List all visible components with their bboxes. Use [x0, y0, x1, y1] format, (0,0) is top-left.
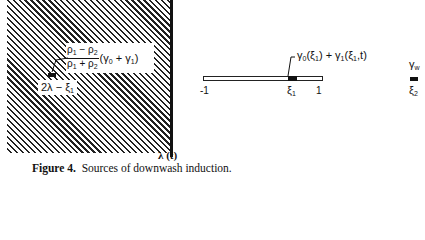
plate-left-end-label: -1 [200, 85, 209, 96]
bound-vortex-position-label: ξ1 [287, 84, 296, 97]
wall-position-label: λ (t) [158, 149, 177, 161]
image-vortex-marker [48, 73, 56, 77]
wake-vortex-position-label: ξ2 [409, 84, 418, 97]
image-point-label: 2λ − ξ1 [38, 80, 77, 95]
figure-number: Figure 4. [32, 162, 76, 174]
bound-vortex-segment [288, 76, 297, 81]
bound-vortex-strength-label: γ0(ξ1) + γ1(ξ1,t) [297, 49, 367, 62]
plate-right-end-label: 1 [316, 85, 322, 96]
caption-text: Sources of downwash induction. [82, 162, 232, 174]
figure-caption: Figure 4. Sources of downwash induction. [32, 162, 232, 174]
wake-vortex-marker [410, 77, 418, 81]
plate-body [203, 76, 323, 81]
wake-vortex-strength-label: γw [409, 58, 420, 71]
